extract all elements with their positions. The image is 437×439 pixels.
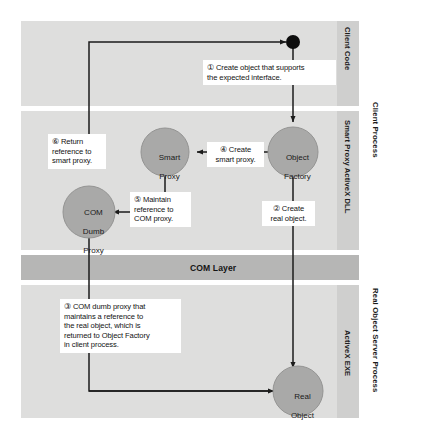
real-object-label-line1: Real <box>294 392 310 401</box>
diagram-canvas: Object Factory Smart Proxy COM Dumb Prox… <box>0 0 437 439</box>
com-dumb-proxy-label-line3: Proxy <box>83 246 103 255</box>
callout-step-2: ② Create real object. <box>262 201 315 226</box>
callout-step-5-line3: COM proxy. <box>134 214 173 223</box>
process-label-client-process: Client Process <box>371 102 380 158</box>
real-object-label-line2: Object <box>291 411 314 420</box>
process-label-real-object-server-process: Real Object Server Process <box>371 288 380 392</box>
callout-step-5-line1: ⑤ Maintain <box>134 195 171 204</box>
callout-step-6-line2: reference to <box>52 147 91 156</box>
callout-step-5-line2: reference to <box>134 205 173 214</box>
client-code-dot <box>286 35 300 49</box>
callout-step-3-line1: ③ COM dumb proxy that <box>64 302 145 311</box>
callout-step-2-line1: ② Create <box>273 204 304 213</box>
lane-label-activex-exe: ActiveX EXE <box>343 330 352 376</box>
callout-step-4-line2: smart proxy. <box>215 155 255 164</box>
com-dumb-proxy-label-line1: COM <box>84 208 103 217</box>
callout-step-4-line1: ④ Create <box>220 145 251 154</box>
callout-step-1-line2: the expected interface. <box>207 73 282 82</box>
callout-step-6-line1: ⑥ Return <box>52 137 83 146</box>
callout-step-6: ⑥ Return reference to smart proxy. <box>48 134 106 169</box>
object-factory-label: Object Factory <box>271 143 315 191</box>
callout-step-3-line5: in client process. <box>64 340 119 349</box>
object-factory-label-line1: Object <box>286 153 309 162</box>
com-dumb-proxy-label-line2: Dumb <box>83 227 104 236</box>
callout-step-3-line2: maintains a reference to <box>64 312 143 321</box>
real-object-label: Real Object <box>277 382 319 430</box>
lane-label-smart-proxy-dll: Smart Proxy ActiveX DLL <box>343 120 352 214</box>
smart-proxy-label-line1: Smart <box>159 153 180 162</box>
smart-proxy-label: Smart Proxy <box>144 143 186 191</box>
callout-step-4: ④ Create smart proxy. <box>207 142 264 167</box>
callout-step-2-line2: real object. <box>271 214 307 223</box>
callout-step-3-line3: the real object, which is <box>64 321 140 330</box>
lane-label-client-code: Client Code <box>343 27 352 70</box>
callout-step-6-line3: smart proxy. <box>52 156 92 165</box>
com-layer-label: COM Layer <box>190 263 236 273</box>
callout-step-3-line4: returned to Object Factory <box>64 331 150 340</box>
com-dumb-proxy-label: COM Dumb Proxy <box>67 198 111 265</box>
object-factory-label-line2: Factory <box>284 172 311 181</box>
callout-step-3: ③ COM dumb proxy that maintains a refere… <box>60 299 181 353</box>
smart-proxy-label-line2: Proxy <box>159 172 179 181</box>
callout-step-1: ① Create object that supports the expect… <box>203 60 336 85</box>
callout-step-5: ⑤ Maintain reference to COM proxy. <box>130 192 191 227</box>
callout-step-1-line1: ① Create object that supports <box>207 63 304 72</box>
